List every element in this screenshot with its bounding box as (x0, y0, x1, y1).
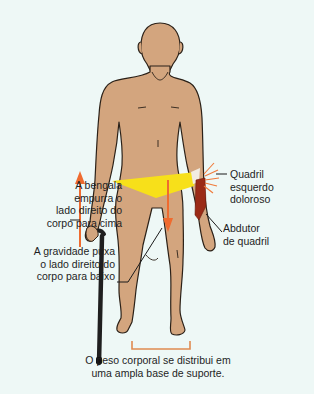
pain-rays (204, 163, 219, 193)
head (141, 23, 180, 70)
gravity-pulls-label: A gravidade puxa o lado direito do corpo… (0, 245, 115, 283)
diagram-canvas: A bengala empurra o lado direito do corp… (0, 0, 314, 394)
painful-hip-label: Quadril esquerdo doloroso (230, 168, 310, 206)
support-base-bracket (132, 341, 190, 349)
cane-pushes-label: A bengala empurra o lado direito do corp… (18, 179, 122, 229)
support-base-label: O peso corporal se distribui em uma ampl… (40, 354, 276, 379)
hip-abductor-label: Abdutor de quadril (223, 222, 303, 247)
